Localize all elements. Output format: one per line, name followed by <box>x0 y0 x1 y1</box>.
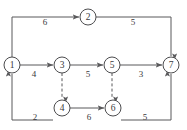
edge-label-1-to-2: 6 <box>43 17 48 27</box>
edge-label-6-to-7: 5 <box>143 112 148 122</box>
node-3-label: 3 <box>60 60 65 70</box>
edge-4-to-6: 6 <box>70 108 104 122</box>
edge-6-to-7: 5 <box>121 74 171 122</box>
edge-label-1-to-4: 2 <box>33 112 38 122</box>
node-5-label: 5 <box>110 60 115 70</box>
node-4[interactable]: 4 <box>54 100 70 116</box>
edge-label-1-to-3: 4 <box>32 69 37 79</box>
edge-label-5-to-7: 3 <box>139 69 144 79</box>
node-2-label: 2 <box>86 12 91 22</box>
edge-2-to-7: 5 <box>96 17 171 56</box>
node-6[interactable]: 6 <box>105 100 121 116</box>
edge-label-3-to-5: 5 <box>86 69 91 79</box>
edge-1-to-2: 6 <box>12 17 79 57</box>
network-diagram-canvas: 6 5 4 5 3 2 6 <box>0 0 187 130</box>
node-5[interactable]: 5 <box>104 57 120 73</box>
edge-1-to-4: 2 <box>12 74 53 122</box>
node-3[interactable]: 3 <box>54 57 70 73</box>
edge-1-to-3: 4 <box>20 65 53 79</box>
edge-3-to-5: 5 <box>70 65 103 79</box>
network-diagram: 6 5 4 5 3 2 6 <box>0 0 187 130</box>
node-7[interactable]: 7 <box>163 57 179 73</box>
node-4-label: 4 <box>60 103 65 113</box>
node-6-label: 6 <box>111 103 116 113</box>
node-1[interactable]: 1 <box>4 57 20 73</box>
edge-label-4-to-6: 6 <box>87 112 92 122</box>
node-7-label: 7 <box>169 60 174 70</box>
edge-5-to-7: 3 <box>120 65 162 79</box>
node-1-label: 1 <box>10 60 15 70</box>
node-2[interactable]: 2 <box>80 9 96 25</box>
edge-label-2-to-7: 5 <box>131 17 136 27</box>
